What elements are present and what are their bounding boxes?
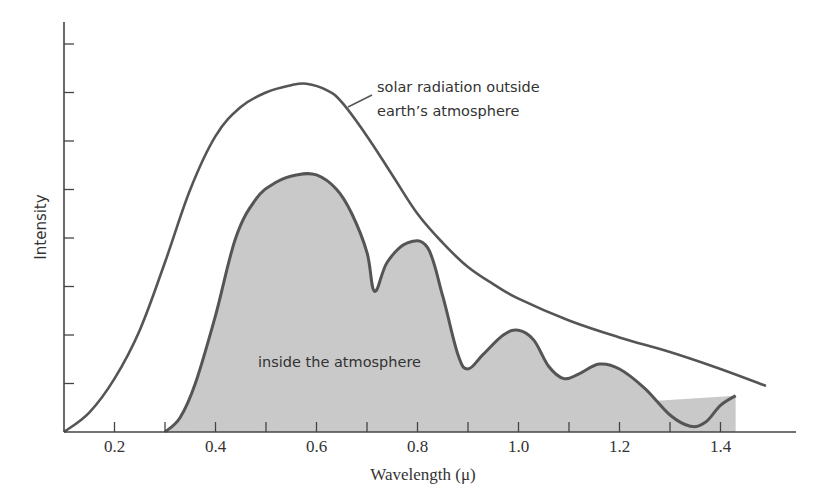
- x-tick-label: 1.2: [609, 437, 630, 456]
- x-tick-label: 1.4: [710, 437, 732, 456]
- y-axis-ticks: [64, 44, 74, 384]
- inside-atmosphere-area: [165, 173, 736, 432]
- annotation-inside: inside the atmosphere: [258, 354, 421, 370]
- annotation-outside-line2: earth’s atmosphere: [377, 103, 519, 119]
- annotation-leader-line: [348, 95, 372, 107]
- y-axis-title: Intensity: [32, 194, 50, 259]
- x-tick-label: 0.8: [407, 437, 428, 456]
- x-tick-label: 0.6: [306, 437, 327, 456]
- x-tick-label: 0.4: [205, 437, 227, 456]
- spectrum-chart: 0.20.40.60.81.01.21.4 Wavelength (μ) Int…: [0, 0, 834, 504]
- x-tick-label: 0.2: [104, 437, 125, 456]
- x-axis-title: Wavelength (μ): [370, 465, 475, 484]
- inside-atmosphere-line: [165, 173, 736, 432]
- annotation-outside-line1: solar radiation outside: [377, 79, 540, 95]
- x-axis-tick-labels: 0.20.40.60.81.01.21.4: [104, 437, 732, 456]
- x-tick-label: 1.0: [508, 437, 529, 456]
